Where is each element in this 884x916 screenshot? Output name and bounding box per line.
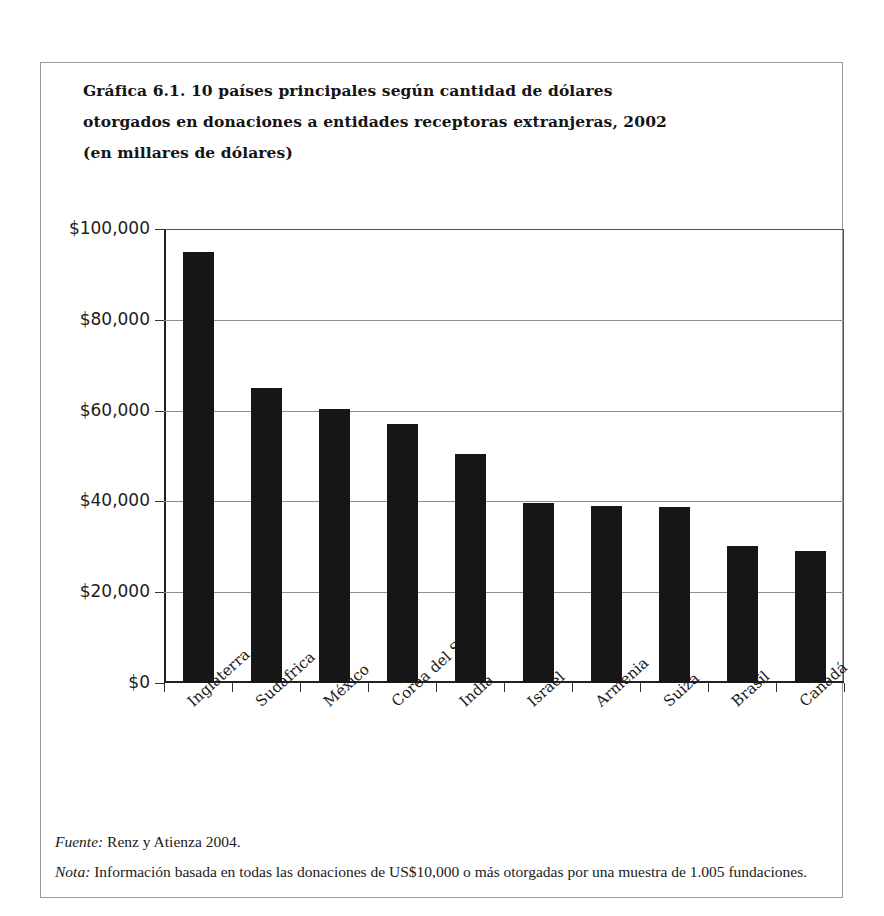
y-axis-label: $40,000 [20,490,150,510]
y-axis-label: $0 [20,672,150,692]
bar [319,409,350,683]
note-text: Información basada en todas las donacion… [94,863,807,880]
y-axis-tick [155,592,164,593]
x-axis-tick [776,683,777,692]
bar [659,507,690,683]
bar [251,388,282,683]
figure-notes: Fuente: Renz y Atienza 2004. Nota: Infor… [55,827,830,887]
bar [727,546,758,683]
y-axis-tick [155,411,164,412]
bar [795,551,826,683]
x-axis-tick [368,683,369,692]
figure-title-line-2: otorgados en donaciones a entidades rece… [83,106,763,137]
y-axis-tick [155,320,164,321]
y-axis-label: $80,000 [20,309,150,329]
source-note: Fuente: Renz y Atienza 2004. [55,827,830,857]
y-axis-tick [155,229,164,230]
x-axis-tick [164,683,165,692]
y-axis-label: $20,000 [20,581,150,601]
x-axis-tick [640,683,641,692]
bar [183,252,214,683]
y-axis-tick [155,501,164,502]
figure-title-line-3: (en millares de dólares) [83,137,763,168]
gridline [164,320,844,321]
figure-frame: Gráfica 6.1. 10 países principales según… [40,62,843,898]
y-axis-tick [155,683,164,684]
x-axis-tick [504,683,505,692]
y-axis-label: $60,000 [20,400,150,420]
x-axis-tick [844,683,845,692]
y-axis-label: $100,000 [20,218,150,238]
x-axis-tick [708,683,709,692]
methodology-note: Nota: Información basada en todas las do… [55,857,830,887]
x-axis-tick [300,683,301,692]
bar-chart: $0$20,000$40,000$60,000$80,000$100,000 I… [164,229,844,683]
x-axis-tick [436,683,437,692]
source-label: Fuente: [55,833,103,850]
bar [591,506,622,683]
x-axis-tick [572,683,573,692]
figure-title-line-1: Gráfica 6.1. 10 países principales según… [83,75,763,106]
x-axis-tick [232,683,233,692]
bar [387,424,418,683]
figure-title: Gráfica 6.1. 10 países principales según… [83,75,763,168]
bar [523,503,554,683]
source-text: Renz y Atienza 2004. [107,833,240,850]
note-label: Nota: [55,863,90,880]
